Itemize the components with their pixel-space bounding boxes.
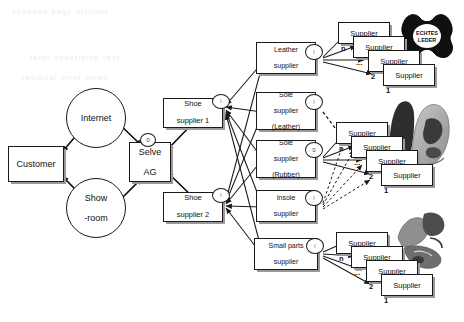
diagram-canvas: scanned page artifact faint underlying t… — [0, 0, 464, 322]
leather-stack-index-1: 1 — [386, 86, 390, 95]
leather-stack-index-ellipsis: ... — [356, 58, 362, 67]
shoe-supplier-1-badge: I — [212, 94, 230, 109]
selve-ag-line1: Selve — [138, 147, 163, 157]
small-parts-supplier-badge: I — [306, 238, 324, 254]
showroom-node[interactable]: Show -room — [66, 178, 126, 238]
small-parts-badge-label: I — [314, 244, 315, 249]
customer-label: Customer — [15, 159, 56, 169]
small-parts-stack-index-1: 1 — [384, 296, 388, 305]
sole-stack-index-ellipsis: ... — [354, 158, 360, 167]
selve-ag-node[interactable]: Selve AG — [129, 142, 171, 182]
sole-leather-line1: Sole — [271, 91, 301, 99]
sole-rubber-line1: Sole — [271, 139, 301, 147]
supplier-card-label: Supplier — [393, 171, 421, 180]
leather-mark-line2: LEDER — [418, 37, 436, 43]
insole-supplier-badge-label: I — [313, 196, 314, 201]
sole-stack-index-n: n — [339, 144, 344, 153]
showroom-label-line1: Show — [83, 193, 109, 203]
selve-ag-badge-label: D — [146, 138, 149, 143]
internet-label: Internet — [80, 113, 113, 123]
sole-rubber-line3: (Rubber) — [271, 171, 301, 179]
sole-leather-badge-label: I — [313, 100, 314, 105]
insole-supplier-line2: supplier — [273, 210, 300, 218]
sole-rubber-line2: supplier — [271, 155, 301, 163]
supplier-card-label: Supplier — [393, 281, 421, 290]
insole-supplier-badge: I — [305, 190, 323, 206]
sole-stack-index-1: 1 — [384, 186, 388, 195]
customer-node[interactable]: Customer — [8, 146, 64, 182]
shoe-supplier-2-line2: supplier 2 — [176, 211, 211, 219]
leather-supplier-badge: I — [305, 44, 323, 60]
leather-supplier-line1: Leather — [273, 46, 300, 54]
shoe-supplier-1-line1: Shoe — [176, 100, 211, 108]
leather-stack-card-1[interactable]: Supplier — [383, 64, 435, 86]
shoe-supplier-1-line2: supplier 1 — [176, 117, 211, 125]
internet-node[interactable]: Internet — [66, 88, 126, 148]
shoe-supplier-2-badge-label: I — [220, 193, 221, 198]
small-parts-stack-index-ellipsis: ... — [354, 268, 360, 277]
sole-rubber-badge-label: D — [312, 148, 315, 153]
sole-leather-line2: supplier — [271, 107, 301, 115]
sole-supplier-leather-badge: I — [305, 94, 323, 110]
insole-supplier-line1: Insole — [273, 194, 300, 202]
sole-supplier-rubber-badge: D — [305, 142, 323, 158]
leather-stack-index-2: 2 — [371, 72, 375, 81]
sole-stack-card-1[interactable]: Supplier — [381, 164, 433, 186]
leather-supplier-badge-label: I — [313, 50, 314, 55]
small-parts-line1: Small parts — [267, 242, 304, 250]
supplier-card-label: Supplier — [395, 71, 423, 80]
leather-mark-line1: ECHTES — [416, 30, 438, 36]
leather-stack-index-n: n — [341, 44, 346, 53]
leather-supplier-line2: supplier — [273, 62, 300, 70]
shoe-supplier-2-line1: Shoe — [176, 194, 211, 202]
small-parts-stack-card-1[interactable]: Supplier — [381, 274, 433, 296]
sole-stack-index-2: 2 — [369, 172, 373, 181]
small-parts-stack-index-n: n — [339, 254, 344, 263]
small-parts-line2: supplier — [267, 258, 304, 266]
shoe-supplier-1-badge-label: I — [220, 99, 221, 104]
small-parts-stack-index-2: 2 — [369, 282, 373, 291]
selve-ag-badge: D — [140, 133, 156, 147]
shoe-supplier-2-badge: I — [212, 188, 230, 203]
selve-ag-line2: AG — [138, 167, 163, 177]
sole-leather-line3: (Leather) — [271, 123, 301, 131]
showroom-label-line2: -room — [83, 213, 109, 223]
